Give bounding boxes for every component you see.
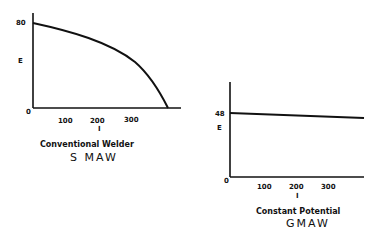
- smaw-x-tick-100: 100: [58, 117, 73, 125]
- smaw-x-tick-200: 200: [90, 117, 105, 125]
- smaw-drooping-curve: [33, 23, 168, 108]
- smaw-x-tick-300: 300: [124, 116, 139, 124]
- smaw-y-label: E: [18, 57, 23, 65]
- gmaw-y-label: E: [217, 124, 222, 132]
- welding-characteristics-diagram: 80 E 0 100 200 300 I Conventional Welder…: [0, 0, 378, 236]
- gmaw-x-tick-200: 200: [289, 183, 304, 191]
- gmaw-chart: 48 E 0 100 200 300 I Constant Potential …: [215, 82, 364, 230]
- gmaw-y-tick-48: 48: [215, 110, 225, 118]
- smaw-x-label: I: [98, 125, 101, 133]
- gmaw-flat-curve: [230, 113, 364, 118]
- smaw-process-label: S MAW: [70, 151, 118, 164]
- smaw-y-tick-80: 80: [16, 19, 26, 27]
- gmaw-y-tick-0: 0: [224, 177, 229, 185]
- gmaw-x-tick-100: 100: [257, 183, 272, 191]
- gmaw-process-label: GMAW: [286, 217, 330, 230]
- smaw-chart: 80 E 0 100 200 300 I Conventional Welder…: [16, 13, 181, 164]
- gmaw-x-label: I: [296, 192, 299, 200]
- gmaw-caption: Constant Potential: [256, 207, 341, 216]
- gmaw-x-tick-300: 300: [321, 183, 336, 191]
- smaw-caption: Conventional Welder: [40, 140, 134, 149]
- smaw-y-tick-0: 0: [26, 108, 31, 116]
